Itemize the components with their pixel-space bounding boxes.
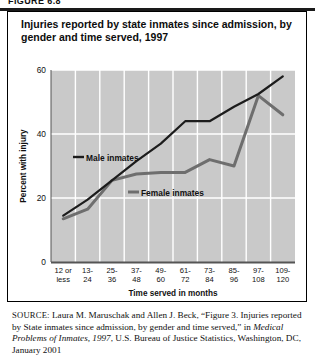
source-line-3-prefix: in [244, 322, 253, 332]
chart-title: Injuries reported by state inmates since… [21, 18, 293, 44]
source-line-1: Laura M. Maruschak and Allen J. Beck, “F… [50, 310, 269, 320]
figure-panel [7, 11, 307, 302]
source-line-3-suffix: , U.S. Bureau of Justice Statistics, [111, 333, 236, 343]
source-note: SOURCE: Laura M. Maruschak and Allen J. … [12, 310, 304, 356]
figure-number-label: FIGURE 6.8 [8, 0, 61, 6]
source-label: SOURCE: [12, 310, 50, 320]
